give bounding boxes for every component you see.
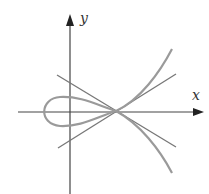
diagram-canvas <box>0 0 209 194</box>
x-arrow-icon <box>193 108 204 116</box>
y-axis-label: y <box>80 10 88 26</box>
curve <box>44 49 172 173</box>
x-axis-label: x <box>192 87 200 103</box>
y-arrow-icon <box>66 14 74 26</box>
y-axis <box>66 14 74 194</box>
